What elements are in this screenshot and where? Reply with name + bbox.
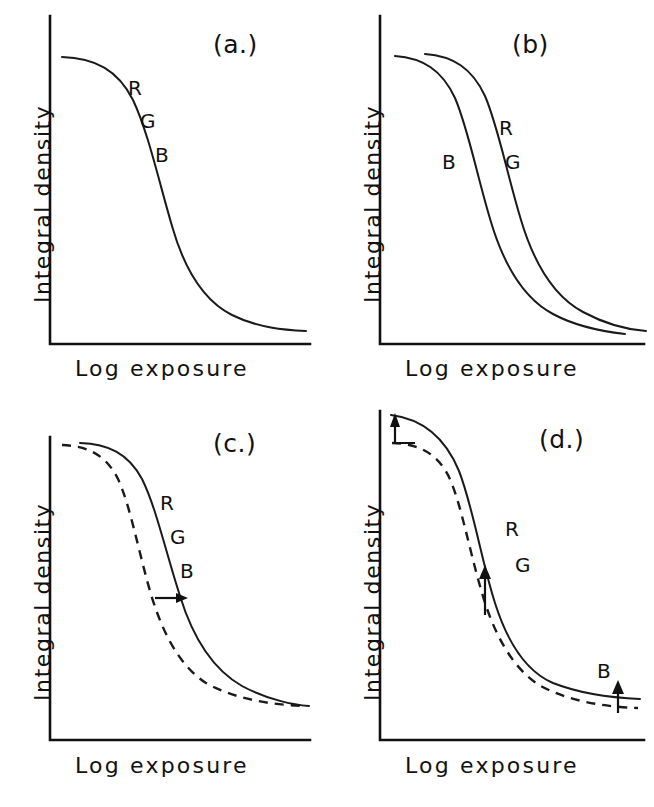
panel-a-label-b: B [155, 145, 169, 165]
panel-c-x-axis-label: Log exposure [75, 755, 249, 777]
panel-d-arrow-mid-head [479, 565, 491, 579]
panel-c-y-axis-label: Integral density [32, 503, 54, 701]
panel-d-label-g: G [515, 555, 531, 575]
panel-b: B R G (b) Integral density Log exposure [327, 0, 654, 403]
panel-d-arrow-top-shaft [395, 425, 415, 443]
panel-d-tag: (d.) [539, 427, 584, 452]
panel-d-axes [380, 411, 644, 740]
panel-a-axes [50, 16, 310, 344]
panel-a: R G B (a.) Integral density Log exposure [0, 0, 327, 403]
panel-c-label-b: B [180, 561, 194, 581]
panel-a-y-axis-label: Integral density [32, 105, 54, 303]
panel-d-label-b: B [597, 661, 611, 681]
panel-c-label-g: G [170, 527, 186, 547]
panel-c-curve-rgb [80, 443, 309, 706]
panel-d-y-axis-label: Integral density [362, 503, 384, 701]
panel-a-label-g: G [140, 111, 156, 131]
panel-d: R G B (d.) Integral density Log exposure [327, 403, 654, 806]
panel-b-curve-rg [425, 54, 646, 331]
panel-a-curve-rgb [62, 57, 306, 331]
figure-four-panel-characteristic-curves: R G B (a.) Integral density Log exposure… [0, 0, 654, 807]
panel-b-curve-b [395, 56, 625, 334]
panel-c: R G B (c.) Integral density Log exposure [0, 403, 327, 806]
panel-c-label-r: R [160, 493, 174, 513]
panel-a-tag: (a.) [213, 32, 258, 57]
panel-d-x-axis-label: Log exposure [405, 755, 579, 777]
panel-d-label-r: R [505, 519, 519, 539]
panel-a-x-axis-label: Log exposure [75, 358, 249, 380]
panel-b-y-axis-label: Integral density [362, 105, 384, 303]
panel-c-axes [50, 437, 310, 740]
panel-b-axes [380, 16, 644, 344]
panel-d-arrow-bottom-head [612, 680, 624, 694]
panel-b-label-b: B [442, 152, 456, 172]
panel-b-tag: (b) [512, 32, 549, 57]
panel-b-label-g: G [505, 152, 521, 172]
panel-c-tag: (c.) [213, 431, 256, 456]
panel-b-label-r: R [499, 118, 513, 138]
panel-b-x-axis-label: Log exposure [405, 358, 579, 380]
panel-a-label-r: R [128, 78, 142, 98]
